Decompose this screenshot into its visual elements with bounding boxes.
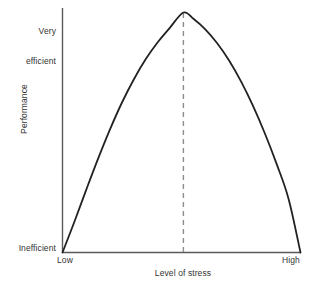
y-axis-top-tick-label: Very efficient bbox=[8, 6, 56, 86]
y-axis-top-tick-label-line2: efficient bbox=[8, 56, 56, 66]
x-axis-title: Level of stress bbox=[118, 268, 248, 278]
y-axis-bottom-tick-label: Inefficient bbox=[0, 243, 56, 253]
performance-curve bbox=[63, 12, 301, 252]
x-axis-left-tick-label: Low bbox=[48, 255, 82, 265]
y-axis-top-tick-label-line1: Very bbox=[8, 26, 56, 36]
x-axis-right-tick-label: High bbox=[282, 255, 314, 265]
performance-stress-chart: Very efficient Inefficient Performance L… bbox=[0, 0, 315, 285]
y-axis-title: Performance bbox=[19, 69, 29, 149]
